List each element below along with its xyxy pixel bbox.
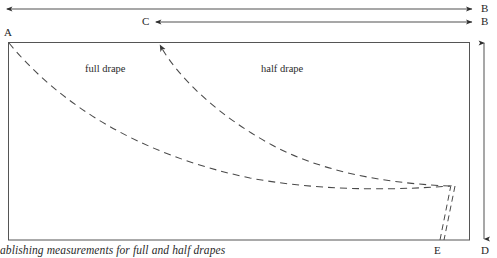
figure-caption: ablishing measurements for full and half…	[0, 244, 225, 257]
label-point-d: D	[481, 245, 489, 256]
figure-canvas: A B B C D E full drape half drape ablish…	[0, 0, 497, 258]
label-point-a: A	[4, 27, 12, 38]
label-point-e: E	[434, 245, 441, 256]
drape-fall-wedge	[440, 185, 455, 240]
region-label-full-drape: full drape	[85, 64, 126, 75]
drape-measurement-diagram	[0, 0, 497, 258]
full-drape-curve	[9, 43, 450, 189]
label-point-c: C	[142, 16, 149, 27]
fabric-rectangle	[9, 43, 470, 241]
label-point-b-top: B	[481, 3, 488, 14]
label-point-b-second: B	[481, 16, 488, 27]
half-drape-curve	[160, 45, 450, 186]
region-label-half-drape: half drape	[261, 64, 303, 75]
